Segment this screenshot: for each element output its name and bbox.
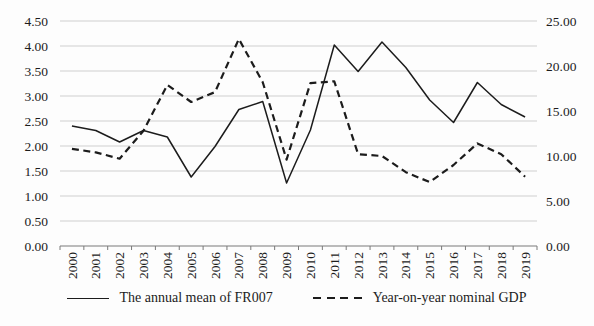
x-axis-tick-label: 2009 bbox=[279, 252, 294, 279]
left-axis-tick-label: 1.50 bbox=[24, 164, 48, 179]
x-axis-tick-label: 2017 bbox=[470, 252, 485, 279]
left-axis-tick-label: 0.00 bbox=[24, 239, 48, 254]
left-axis-tick-label: 4.50 bbox=[24, 14, 48, 29]
left-axis-tick-label: 0.50 bbox=[24, 214, 48, 229]
x-axis-tick-label: 2018 bbox=[494, 252, 509, 279]
x-axis-tick-label: 2008 bbox=[255, 252, 270, 279]
series-line-fr007 bbox=[72, 42, 525, 183]
right-axis-tick-label: 15.00 bbox=[546, 104, 577, 119]
series-line-gdp bbox=[72, 39, 525, 182]
x-axis-tick-label: 2005 bbox=[184, 252, 199, 279]
x-axis-tick-label: 2011 bbox=[327, 252, 342, 279]
legend-label-gdp: Year-on-year nominal GDP bbox=[373, 290, 527, 306]
x-axis-tick-label: 2001 bbox=[88, 252, 103, 279]
x-axis-tick-label: 2004 bbox=[160, 252, 175, 279]
x-axis-tick-label: 2014 bbox=[398, 252, 413, 279]
x-axis-tick-label: 2012 bbox=[351, 252, 366, 279]
x-axis-tick-label: 2010 bbox=[303, 252, 318, 279]
right-axis-tick-label: 0.00 bbox=[546, 239, 570, 254]
left-axis-tick-label: 4.00 bbox=[24, 39, 48, 54]
legend-label-fr007: The annual mean of FR007 bbox=[119, 290, 272, 306]
left-axis-tick-label: 2.50 bbox=[24, 114, 48, 129]
right-axis-tick-label: 20.00 bbox=[546, 59, 577, 74]
x-axis-tick-label: 2003 bbox=[136, 252, 151, 279]
dashed-line-swatch bbox=[313, 297, 363, 300]
x-axis-tick-label: 2007 bbox=[231, 252, 246, 279]
left-axis-tick-label: 1.00 bbox=[24, 189, 48, 204]
chart-legend: The annual mean of FR007 Year-on-year no… bbox=[0, 290, 594, 306]
solid-line-swatch bbox=[67, 298, 109, 299]
x-axis-tick-label: 2013 bbox=[375, 252, 390, 279]
fr007-gdp-line-chart-figure: 0.000.501.001.502.002.503.003.504.004.50… bbox=[0, 0, 594, 326]
left-axis-tick-label: 3.00 bbox=[24, 89, 48, 104]
x-axis-tick-label: 2000 bbox=[65, 252, 80, 279]
x-axis-tick-label: 2016 bbox=[446, 252, 461, 279]
left-axis-tick-label: 3.50 bbox=[24, 64, 48, 79]
legend-item-gdp: Year-on-year nominal GDP bbox=[313, 290, 527, 306]
x-axis-tick-label: 2002 bbox=[112, 252, 127, 279]
x-axis-tick-label: 2019 bbox=[518, 252, 533, 279]
left-axis-tick-label: 2.00 bbox=[24, 139, 48, 154]
right-axis-tick-label: 25.00 bbox=[546, 14, 577, 29]
x-axis-tick-label: 2015 bbox=[422, 252, 437, 279]
chart-canvas: 0.000.501.001.502.002.503.003.504.004.50… bbox=[0, 0, 594, 290]
right-axis-tick-label: 10.00 bbox=[546, 149, 577, 164]
right-axis-tick-label: 5.00 bbox=[546, 194, 570, 209]
legend-item-fr007: The annual mean of FR007 bbox=[67, 290, 272, 306]
x-axis-tick-label: 2006 bbox=[208, 252, 223, 279]
